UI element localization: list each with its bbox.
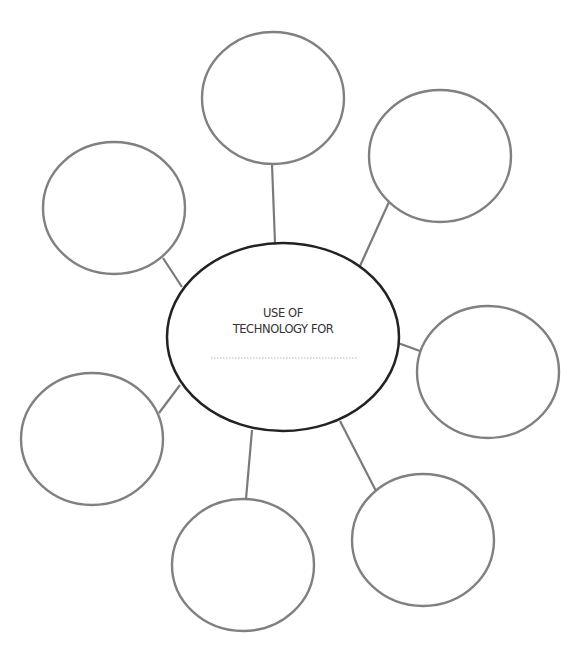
center-bubble <box>167 243 399 431</box>
connector-top-left <box>163 258 182 287</box>
bubble-top <box>202 32 344 164</box>
center-title-line-1: USE OF <box>167 305 399 321</box>
bubble-right <box>417 306 559 438</box>
bubble-top-left <box>43 142 185 274</box>
bubble-left <box>21 373 163 505</box>
bubble-top-right <box>369 90 511 222</box>
connector-bottom-right <box>340 421 376 491</box>
connector-top <box>272 164 275 243</box>
center-title-line-2: TECHNOLOGY FOR <box>167 321 399 337</box>
connector-top-right <box>360 202 389 266</box>
bubble-bottom-right <box>352 474 494 606</box>
connector-bottom-left <box>246 430 252 499</box>
connector-right <box>398 343 420 351</box>
bubble-bottom-left <box>172 499 314 631</box>
connector-left <box>159 385 180 413</box>
